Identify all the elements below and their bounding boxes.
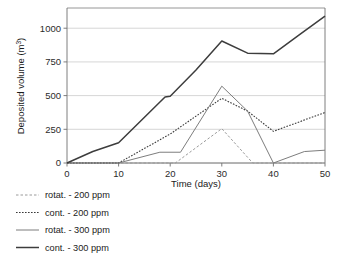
y-tick-label-0: 0 bbox=[56, 157, 61, 168]
deposited-volume-line-chart: 01020304050 02505007501000 Time (days) D… bbox=[0, 0, 346, 263]
y-tick-label-750: 750 bbox=[45, 56, 61, 67]
y-tick-label-500: 500 bbox=[45, 90, 61, 101]
y-axis-title: Deposited volume (m3) bbox=[15, 38, 26, 135]
legend-label-3: cont. - 300 ppm bbox=[45, 243, 109, 253]
x-tick-label-10: 10 bbox=[113, 168, 124, 179]
y-tick-label-250: 250 bbox=[45, 124, 61, 135]
x-tick-label-0: 0 bbox=[64, 168, 69, 179]
x-tick-label-50: 50 bbox=[320, 168, 331, 179]
x-axis-title: Time (days) bbox=[171, 178, 221, 189]
x-tick-label-40: 40 bbox=[268, 168, 279, 179]
legend-label-0: rotat. - 200 ppm bbox=[45, 190, 110, 200]
y-axis-title-tail: ) bbox=[15, 38, 26, 41]
y-tick-label-1000: 1000 bbox=[40, 23, 61, 34]
chart-figure: 01020304050 02505007501000 Time (days) D… bbox=[0, 0, 346, 263]
legend-label-1: cont. - 200 ppm bbox=[45, 208, 109, 218]
legend-label-2: rotat. - 300 ppm bbox=[45, 225, 110, 235]
y-axis-title-base: Deposited volume (m bbox=[15, 44, 26, 134]
